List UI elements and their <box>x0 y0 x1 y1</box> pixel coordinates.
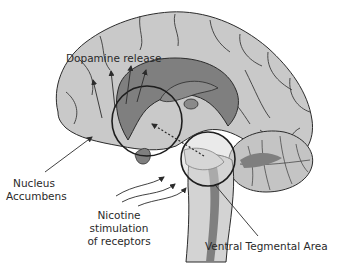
nicotine-label-line1: Nicotine <box>86 209 152 222</box>
nicotine-label-line3: of receptors <box>86 235 152 248</box>
thalamus-nucleus <box>184 99 198 109</box>
nucleus-accumbens-label-line2: Accumbens <box>6 190 62 203</box>
nicotine-label: Nicotine stimulation of receptors <box>86 209 152 248</box>
nicotine-label-line2: stimulation <box>86 222 152 235</box>
ventral-tegmental-area-label: Ventral Tegmental Area <box>205 240 328 253</box>
nicotine-arrows <box>116 177 186 206</box>
nucleus-accumbens-pointer <box>45 137 92 172</box>
vta-circle <box>181 132 235 186</box>
nucleus-accumbens-label: Nucleus Accumbens <box>6 177 62 203</box>
dopamine-release-label: Dopamine release <box>66 52 162 65</box>
brain-diagram <box>0 0 339 274</box>
nucleus-accumbens-label-line1: Nucleus <box>6 177 62 190</box>
